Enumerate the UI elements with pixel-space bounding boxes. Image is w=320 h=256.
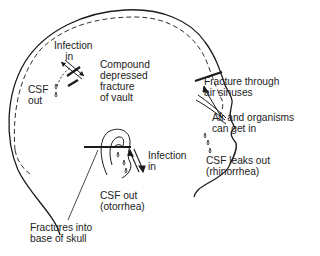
csf-drops-ear [117,152,127,173]
label-fractures-base-skull: Fractures into base of skull [30,222,92,244]
label-compound-fracture: Compound depressed fracture of vault [100,59,150,103]
label-fracture-air-sinuses: Fracture through air sinuses [204,76,279,98]
csf-drops-nose [204,133,211,153]
label-csf-leaks-out: CSF leaks out (rhinorrhea) [206,155,270,177]
base-skull-leader [68,150,98,220]
label-csf-out-ear: CSF out (otorrhea) [100,190,145,212]
label-air-organisms: Air and organisms can get in [212,112,294,134]
csf-drops-top [55,84,57,97]
label-infection-in-vault: Infection in [54,40,93,62]
ear [101,129,131,178]
label-csf-out-vault: CSF out [28,84,48,106]
vault-fracture-marks [57,60,84,86]
label-infection-in-ear: Infection in [148,150,187,172]
